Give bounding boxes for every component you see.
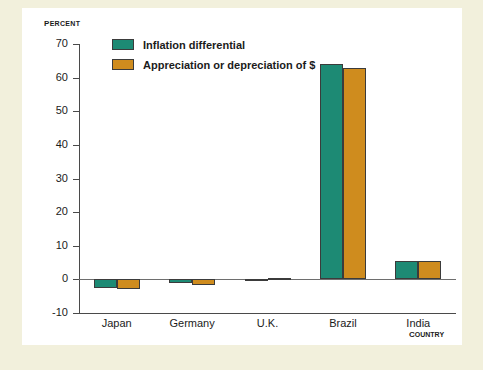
x-tick-label: Japan — [102, 317, 132, 329]
y-tick-label: 60 — [28, 71, 68, 83]
x-tick-label: U.K. — [257, 317, 278, 329]
y-tick-mark — [73, 145, 79, 146]
bar — [245, 279, 268, 281]
bar — [117, 279, 140, 289]
bar — [268, 278, 291, 280]
bar — [169, 279, 192, 283]
chart-legend: Inflation differential Appreciation or d… — [112, 38, 315, 78]
bar — [320, 64, 343, 279]
legend-label: Inflation differential — [143, 39, 245, 51]
y-axis-line — [79, 44, 80, 314]
y-tick-mark — [73, 212, 79, 213]
y-tick-label: 50 — [28, 104, 68, 116]
y-tick-label: 20 — [28, 205, 68, 217]
legend-item: Appreciation or depreciation of $ — [112, 58, 315, 71]
y-tick-mark — [73, 313, 79, 314]
x-axis-line — [79, 313, 456, 314]
chart-figure: Percent Country 706050403020100-10 Japan… — [0, 0, 483, 370]
y-tick-label: 40 — [28, 138, 68, 150]
y-tick-mark — [73, 111, 79, 112]
bar — [94, 279, 117, 287]
y-tick-mark — [73, 44, 79, 45]
y-tick-label: 70 — [28, 37, 68, 49]
x-tick-label: Germany — [169, 317, 214, 329]
y-tick-mark — [73, 246, 79, 247]
y-tick-label: 30 — [28, 172, 68, 184]
legend-label: Appreciation or depreciation of $ — [143, 59, 315, 71]
y-tick-mark — [73, 279, 79, 280]
y-tick-label: -10 — [28, 306, 68, 318]
y-tick-mark — [73, 78, 79, 79]
bar — [192, 279, 215, 284]
bar — [343, 68, 366, 280]
y-tick-label: 10 — [28, 239, 68, 251]
bar — [395, 261, 418, 279]
x-tick-label: Brazil — [329, 317, 357, 329]
y-tick-label: 0 — [28, 272, 68, 284]
legend-swatch-icon — [112, 39, 134, 50]
legend-swatch-icon — [112, 59, 134, 70]
legend-item: Inflation differential — [112, 38, 315, 51]
x-tick-label: India — [406, 317, 430, 329]
bar — [418, 261, 441, 279]
y-tick-mark — [73, 179, 79, 180]
